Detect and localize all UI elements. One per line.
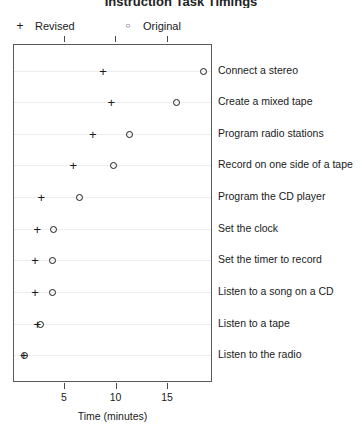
- data-point-original: [107, 159, 120, 172]
- data-point-revised: +: [29, 254, 42, 267]
- category-label: Connect a stereo: [218, 64, 298, 76]
- data-point-original: [123, 128, 136, 141]
- row-gridline: [14, 260, 211, 261]
- category-label: Program the CD player: [218, 190, 325, 202]
- data-point-revised: +: [86, 128, 99, 141]
- category-label: Set the timer to record: [218, 253, 322, 265]
- x-axis-tick: [116, 383, 117, 389]
- category-label: Set the clock: [218, 222, 278, 234]
- chart-title-cropped: Instruction Task Timings: [0, 0, 362, 8]
- data-point-revised: +: [31, 223, 44, 236]
- data-point-revised: +: [35, 191, 48, 204]
- top-axis-tick: [64, 36, 65, 42]
- legend-item-revised: +Revised: [14, 16, 75, 32]
- data-point-original: [46, 254, 59, 267]
- data-point-original: [73, 191, 86, 204]
- x-axis-tick: [64, 383, 65, 389]
- category-label: Listen to a song on a CD: [218, 285, 334, 297]
- category-label: Create a mixed tape: [218, 95, 313, 107]
- chart-legend: +Revised ○Original: [0, 16, 212, 32]
- data-point-original: [47, 223, 60, 236]
- category-label: Record on one side of a tape: [218, 158, 353, 170]
- x-axis-title: Time (minutes): [13, 410, 212, 423]
- plus-marker-icon: +: [14, 18, 26, 34]
- row-gridline: [14, 292, 211, 293]
- data-point-original: [18, 349, 31, 362]
- data-point-revised: +: [29, 286, 42, 299]
- category-label: Listen to the radio: [218, 348, 301, 360]
- x-axis-tick-label: 15: [147, 391, 187, 403]
- top-axis-tick: [115, 36, 116, 42]
- category-label: Listen to a tape: [218, 317, 290, 329]
- chart-title-text: Instruction Task Timings: [105, 0, 258, 8]
- plot-inner: ++++++++++: [14, 45, 211, 381]
- data-point-original: [197, 65, 210, 78]
- circle-marker-icon: ○: [122, 18, 134, 34]
- data-point-original: [46, 286, 59, 299]
- row-gridline: [14, 355, 211, 356]
- legend-label-revised: Revised: [35, 18, 75, 34]
- data-point-revised: +: [97, 65, 110, 78]
- data-point-revised: +: [105, 96, 118, 109]
- dot-plot-chart: Instruction Task Timings +Revised ○Origi…: [0, 0, 362, 441]
- x-axis-tick-label: 10: [96, 391, 136, 403]
- data-point-original: [34, 318, 47, 331]
- category-label: Program radio stations: [218, 127, 324, 139]
- legend-item-original: ○Original: [122, 16, 181, 32]
- row-gridline: [14, 71, 211, 72]
- x-axis-tick: [167, 383, 168, 389]
- legend-label-original: Original: [143, 18, 181, 34]
- plot-area: ++++++++++: [13, 44, 212, 382]
- row-gridline: [14, 134, 211, 135]
- x-axis-tick-label: 5: [44, 391, 84, 403]
- top-axis-tick: [167, 36, 168, 42]
- data-point-original: [170, 96, 183, 109]
- data-point-revised: +: [67, 159, 80, 172]
